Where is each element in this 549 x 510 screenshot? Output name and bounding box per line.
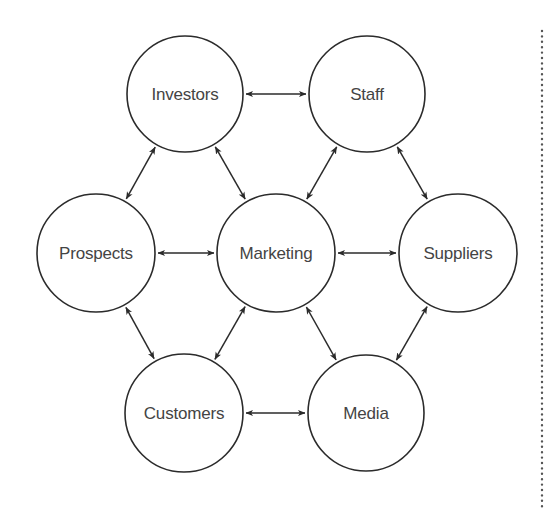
node-media: Media	[308, 355, 424, 471]
node-label-investors: Investors	[151, 85, 218, 104]
double-arrow-staff-marketing	[307, 147, 337, 199]
double-arrow-staff-suppliers	[397, 147, 427, 199]
node-suppliers: Suppliers	[399, 194, 517, 312]
double-arrow-investors-marketing	[215, 147, 245, 199]
nodes-layer: Investors Staff Prospects Marketing Supp…	[37, 36, 517, 472]
double-arrow-investors-prospects	[126, 147, 155, 199]
node-label-staff: Staff	[350, 85, 384, 104]
node-customers: Customers	[125, 354, 243, 472]
node-label-customers: Customers	[144, 404, 224, 423]
stakeholder-network-diagram: Investors Staff Prospects Marketing Supp…	[0, 0, 549, 510]
double-arrow-marketing-customers	[215, 307, 245, 360]
node-label-prospects: Prospects	[59, 244, 133, 263]
double-arrow-suppliers-media	[396, 307, 427, 360]
node-investors: Investors	[127, 36, 243, 152]
node-label-suppliers: Suppliers	[423, 244, 492, 263]
double-arrow-marketing-media	[306, 307, 336, 360]
node-label-marketing: Marketing	[240, 244, 313, 263]
node-staff: Staff	[309, 36, 425, 152]
double-arrow-prospects-customers	[126, 307, 154, 358]
node-marketing: Marketing	[217, 194, 335, 312]
node-label-media: Media	[343, 404, 389, 423]
node-prospects: Prospects	[37, 194, 155, 312]
